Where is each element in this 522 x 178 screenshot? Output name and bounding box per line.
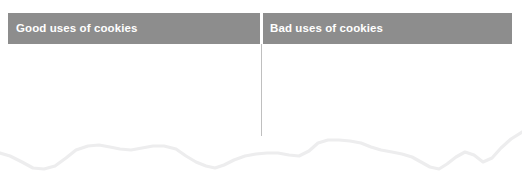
- column-header-label-bad-uses: Bad uses of cookies: [270, 23, 383, 35]
- column-divider-line: [261, 44, 262, 136]
- column-header-label-good-uses: Good uses of cookies: [16, 23, 138, 35]
- table-header: Good uses of cookies Bad uses of cookies: [8, 13, 512, 44]
- table-header-cell-good-uses: Good uses of cookies: [8, 13, 260, 44]
- table-header-cell-bad-uses: Bad uses of cookies: [263, 13, 512, 44]
- table-graphic: Good uses of cookies Bad uses of cookies: [0, 0, 522, 178]
